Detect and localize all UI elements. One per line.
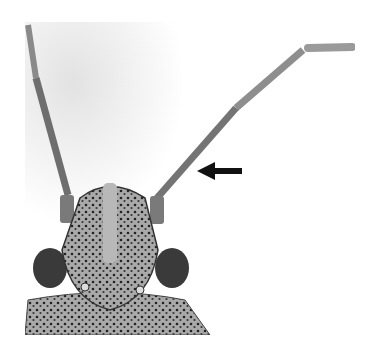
insect-photo xyxy=(25,22,355,335)
arrow-icon xyxy=(197,162,242,180)
left-ocellus xyxy=(81,283,89,291)
right-eye xyxy=(155,248,189,288)
clypeus xyxy=(103,183,117,263)
figure-canvas xyxy=(0,0,378,353)
right-ocellus xyxy=(136,286,144,294)
left-eye xyxy=(33,248,67,288)
